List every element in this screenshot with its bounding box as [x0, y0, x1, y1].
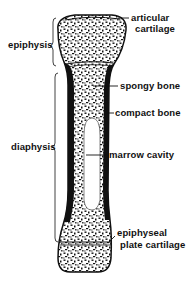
diaphysis-bracket	[52, 73, 58, 242]
label-spongy-bone: spongy bone	[120, 81, 180, 91]
marrow-cavity	[84, 118, 100, 210]
label-epiphysis: epiphysis	[8, 40, 53, 50]
label-marrow-cavity: marrow cavity	[109, 150, 174, 160]
label-epiphyseal-line2: plate cartilage	[120, 240, 185, 250]
label-compact-bone: compact bone	[115, 108, 181, 118]
compact-bone-left	[64, 62, 74, 222]
label-articular-line1: articular	[131, 13, 169, 23]
label-diaphysis: diaphysis	[11, 142, 56, 152]
label-epiphyseal-line1: epiphyseal	[117, 228, 167, 238]
label-articular-line2: cartilage	[135, 24, 175, 34]
